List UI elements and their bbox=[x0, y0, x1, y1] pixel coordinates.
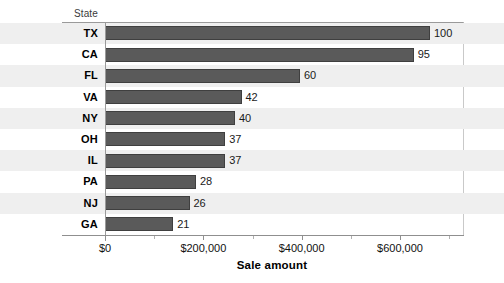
bar[interactable] bbox=[105, 132, 225, 146]
bar-value-label: 26 bbox=[190, 193, 206, 214]
bar-value-label: 21 bbox=[173, 214, 189, 235]
row-label-il: IL bbox=[0, 150, 98, 171]
bar[interactable] bbox=[105, 154, 225, 168]
bar[interactable] bbox=[105, 217, 173, 231]
bar[interactable] bbox=[105, 26, 430, 40]
chart-rows: TX100CA95FL60VA42NY40OH37IL37PA28NJ26GA2… bbox=[0, 23, 504, 235]
bar-value-label: 95 bbox=[414, 44, 430, 65]
bar-value-label: 40 bbox=[235, 108, 251, 129]
bar[interactable] bbox=[105, 196, 190, 210]
bar-value-label: 60 bbox=[300, 65, 316, 86]
y-axis-caption: State bbox=[74, 8, 98, 19]
x-axis-title-wrap: Sale amount bbox=[0, 259, 504, 271]
bar-value-label: 42 bbox=[242, 87, 258, 108]
table-row[interactable]: GA21 bbox=[0, 214, 504, 235]
bar[interactable] bbox=[105, 48, 414, 62]
table-row[interactable]: IL37 bbox=[0, 150, 504, 171]
x-axis-title: Sale amount bbox=[237, 259, 308, 271]
bar[interactable] bbox=[105, 175, 196, 189]
x-axis-tick-label: $600,000 bbox=[377, 242, 423, 254]
row-label-va: VA bbox=[0, 87, 98, 108]
x-axis-tick-label: $0 bbox=[99, 242, 111, 254]
bar-track: 21 bbox=[105, 214, 504, 235]
table-row[interactable]: NJ26 bbox=[0, 193, 504, 214]
x-axis-tick bbox=[203, 236, 204, 240]
bar[interactable] bbox=[105, 69, 300, 83]
bar-track: 100 bbox=[105, 23, 504, 44]
bar[interactable] bbox=[105, 90, 242, 104]
bar-chart: State TX100CA95FL60VA42NY40OH37IL37PA28N… bbox=[0, 0, 504, 283]
x-axis-tick-label: $200,000 bbox=[180, 242, 226, 254]
row-label-pa: PA bbox=[0, 171, 98, 192]
x-axis-minor-tick bbox=[253, 236, 254, 239]
x-axis-line bbox=[62, 235, 464, 236]
row-label-nj: NJ bbox=[0, 193, 98, 214]
x-axis-tick bbox=[302, 236, 303, 240]
bar-track: 37 bbox=[105, 150, 504, 171]
bar-value-label: 37 bbox=[225, 129, 241, 150]
table-row[interactable]: VA42 bbox=[0, 87, 504, 108]
row-label-ca: CA bbox=[0, 44, 98, 65]
x-axis-minor-tick bbox=[154, 236, 155, 239]
row-label-tx: TX bbox=[0, 23, 98, 44]
row-label-ny: NY bbox=[0, 108, 98, 129]
row-label-ga: GA bbox=[0, 214, 98, 235]
y-axis-line bbox=[105, 22, 106, 241]
table-row[interactable]: PA28 bbox=[0, 171, 504, 192]
x-axis-minor-tick bbox=[351, 236, 352, 239]
bar-value-label: 28 bbox=[196, 171, 212, 192]
row-label-oh: OH bbox=[0, 129, 98, 150]
bar-value-label: 37 bbox=[225, 150, 241, 171]
bar-track: 42 bbox=[105, 87, 504, 108]
bar-track: 40 bbox=[105, 108, 504, 129]
table-row[interactable]: OH37 bbox=[0, 129, 504, 150]
table-row[interactable]: FL60 bbox=[0, 65, 504, 86]
bar-track: 95 bbox=[105, 44, 504, 65]
x-axis-tick-label: $400,000 bbox=[279, 242, 325, 254]
table-row[interactable]: CA95 bbox=[0, 44, 504, 65]
x-axis-tick bbox=[400, 236, 401, 240]
table-row[interactable]: NY40 bbox=[0, 108, 504, 129]
row-label-fl: FL bbox=[0, 65, 98, 86]
bar-track: 26 bbox=[105, 193, 504, 214]
bar-value-label: 100 bbox=[430, 23, 452, 44]
bar-track: 37 bbox=[105, 129, 504, 150]
bar-track: 28 bbox=[105, 171, 504, 192]
x-axis-minor-tick bbox=[449, 236, 450, 239]
x-axis-tick bbox=[105, 236, 106, 240]
table-row[interactable]: TX100 bbox=[0, 23, 504, 44]
bar[interactable] bbox=[105, 111, 235, 125]
bar-track: 60 bbox=[105, 65, 504, 86]
